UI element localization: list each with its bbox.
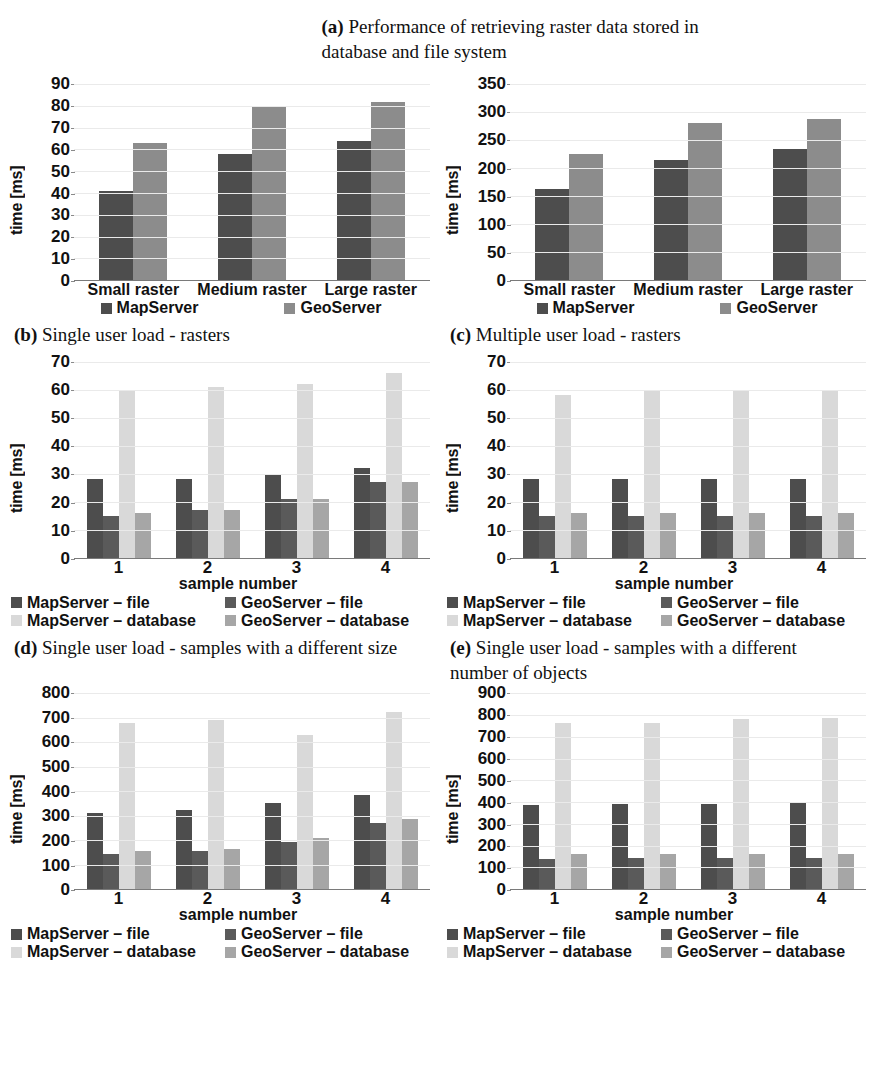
chart-f-ytick: 300 bbox=[42, 806, 70, 826]
chart-d-ytick: 70 bbox=[51, 352, 70, 372]
legend-swatch-icon bbox=[101, 303, 112, 314]
chart-e-group bbox=[510, 362, 599, 558]
caption-text-b: Single user load - rasters bbox=[42, 324, 230, 345]
legend-item: GeoServer – database bbox=[661, 943, 861, 961]
chart-c-gridline bbox=[510, 140, 866, 141]
bar bbox=[135, 513, 151, 558]
chart-d-gridline bbox=[74, 362, 430, 363]
caption-text-c: Multiple user load - rasters bbox=[476, 324, 681, 345]
legend-label: MapServer – database bbox=[27, 612, 196, 630]
bar bbox=[281, 499, 297, 558]
chart-b-plot bbox=[74, 84, 430, 281]
chart-d-gridline bbox=[74, 474, 430, 475]
legend-label: GeoServer – file bbox=[677, 925, 799, 943]
chart-f-yticks: 0100200300400500600700800 bbox=[28, 693, 74, 890]
bar bbox=[571, 513, 587, 558]
bar bbox=[402, 819, 418, 889]
bar bbox=[224, 510, 240, 558]
legend-item: MapServer bbox=[537, 299, 635, 317]
caption-tag-b: (b) bbox=[14, 324, 37, 345]
chart-b-yticks: 0102030405060708090 bbox=[28, 84, 74, 281]
chart-c-ytick: 250 bbox=[478, 130, 506, 150]
chart-e-gridline bbox=[510, 502, 866, 503]
chart-e-group bbox=[599, 362, 688, 558]
chart-c-gridline bbox=[510, 196, 866, 197]
legend-label: MapServer – file bbox=[463, 594, 586, 612]
chart-d-group bbox=[252, 362, 341, 558]
chart-g-ytick: 500 bbox=[478, 771, 506, 791]
chart-c-xticks: Small rasterMedium rasterLarge raster bbox=[510, 281, 866, 299]
chart-b-group bbox=[311, 84, 430, 280]
chart-b-ytick: 0 bbox=[61, 271, 70, 291]
bar bbox=[806, 858, 822, 890]
chart-b-gridline bbox=[74, 215, 430, 216]
legend-item: GeoServer – database bbox=[661, 612, 861, 630]
legend-item: MapServer – file bbox=[447, 594, 643, 612]
chart-e-legend: MapServer – fileGeoServer – fileMapServe… bbox=[436, 594, 872, 630]
chart-c-ytick: 200 bbox=[478, 159, 506, 179]
legend-label: GeoServer – file bbox=[241, 594, 363, 612]
legend-item: GeoServer – database bbox=[225, 943, 425, 961]
panel-g: time [ms] 0100200300400500600700800900 1… bbox=[436, 693, 872, 961]
chart-f-ytick: 600 bbox=[42, 732, 70, 752]
legend-label: MapServer bbox=[117, 299, 199, 317]
bar bbox=[644, 723, 660, 889]
chart-g-ytick: 600 bbox=[478, 749, 506, 769]
legend-swatch-icon bbox=[661, 615, 672, 626]
chart-b-group bbox=[193, 84, 312, 280]
chart-g-plot bbox=[510, 693, 866, 890]
panel-d: time [ms] 010203040506070 1234 sample nu… bbox=[0, 362, 436, 630]
legend-label: MapServer – file bbox=[27, 925, 150, 943]
bar bbox=[701, 804, 717, 889]
bar bbox=[628, 516, 644, 558]
chart-f-gridline bbox=[74, 791, 430, 792]
chart-g-ytick: 400 bbox=[478, 793, 506, 813]
chart-e-yticks: 010203040506070 bbox=[464, 362, 510, 559]
chart-d-legend: MapServer – fileGeoServer – fileMapServe… bbox=[0, 594, 436, 630]
chart-f: time [ms] 0100200300400500600700800 1234 bbox=[0, 693, 436, 908]
chart-e-ylabel: time [ms] bbox=[442, 362, 464, 577]
bar bbox=[688, 123, 722, 280]
chart-c-plot bbox=[510, 84, 866, 281]
legend-swatch-icon bbox=[447, 597, 458, 608]
legend-row: MapServer – fileGeoServer – file bbox=[11, 925, 425, 943]
chart-f-ytick: 800 bbox=[42, 683, 70, 703]
legend-label: MapServer – database bbox=[463, 612, 632, 630]
legend-label: MapServer – database bbox=[27, 943, 196, 961]
legend-label: GeoServer – file bbox=[241, 925, 363, 943]
chart-e-ytick: 0 bbox=[497, 549, 506, 569]
chart-e-ytick: 20 bbox=[487, 493, 506, 513]
legend-swatch-icon bbox=[447, 615, 458, 626]
legend-item: MapServer – file bbox=[11, 925, 207, 943]
chart-b-gridline bbox=[74, 84, 430, 85]
chart-d-ytick: 50 bbox=[51, 408, 70, 428]
bar bbox=[297, 735, 313, 889]
bar bbox=[806, 516, 822, 558]
chart-g-ytick: 200 bbox=[478, 836, 506, 856]
chart-c: time [ms] 050100150200250300350 Small ra… bbox=[436, 84, 872, 299]
chart-e-ytick: 50 bbox=[487, 408, 506, 428]
caption-text-e: Single user load - samples with a differ… bbox=[450, 637, 797, 683]
chart-b-ytick: 50 bbox=[51, 162, 70, 182]
chart-g-gridline bbox=[510, 737, 866, 738]
chart-g-gridline bbox=[510, 867, 866, 868]
chart-b-xtick: Small raster bbox=[74, 281, 193, 299]
bar bbox=[660, 854, 676, 889]
chart-c-ytick: 150 bbox=[478, 187, 506, 207]
legend-swatch-icon bbox=[720, 303, 731, 314]
chart-c-gridline bbox=[510, 252, 866, 253]
legend-item: GeoServer – database bbox=[225, 612, 425, 630]
chart-b-ytick: 80 bbox=[51, 96, 70, 116]
chart-f-gridline bbox=[74, 767, 430, 768]
chart-d-gridline bbox=[74, 502, 430, 503]
bar bbox=[822, 718, 838, 890]
chart-d-xticks: 1234 bbox=[74, 559, 430, 577]
chart-b-ylabel: time [ms] bbox=[6, 84, 28, 299]
legend-label: GeoServer – database bbox=[241, 943, 409, 961]
bar bbox=[103, 516, 119, 558]
bar bbox=[313, 838, 329, 889]
chart-d-ytick: 40 bbox=[51, 436, 70, 456]
chart-f-gridline bbox=[74, 840, 430, 841]
chart-f-plot bbox=[74, 693, 430, 890]
legend-item: GeoServer – file bbox=[661, 594, 861, 612]
